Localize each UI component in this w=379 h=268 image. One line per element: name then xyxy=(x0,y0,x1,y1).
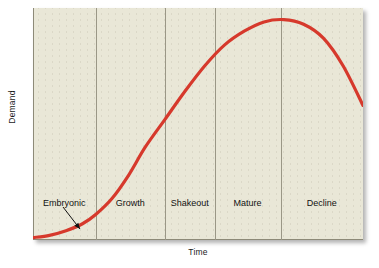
demand-curve-line xyxy=(33,20,363,238)
x-axis-title: Time xyxy=(33,247,363,257)
embryonic-leader-line xyxy=(63,207,80,229)
industry-life-cycle-figure: Demand EmbryonicGrowthShakeoutMatureDecl… xyxy=(0,0,379,268)
demand-curve-layer xyxy=(33,8,363,240)
plot-panel: EmbryonicGrowthShakeoutMatureDecline xyxy=(33,8,363,240)
y-axis-title: Demand xyxy=(7,77,17,137)
